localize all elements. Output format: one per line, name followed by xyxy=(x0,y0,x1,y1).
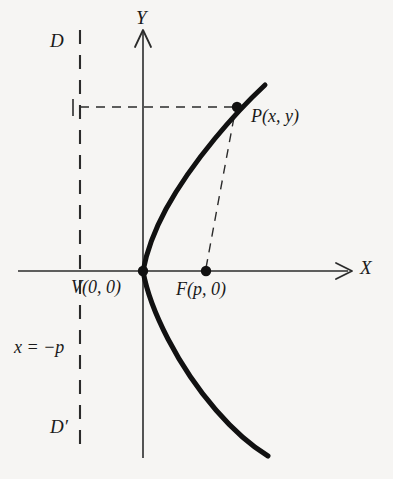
y-axis-label: Y xyxy=(136,8,147,27)
vertex-point xyxy=(138,266,148,276)
focus-label: F(p, 0) xyxy=(176,280,226,298)
point-p-marker xyxy=(232,102,242,112)
figure-canvas xyxy=(0,0,393,479)
vertex-label: V(0, 0) xyxy=(71,278,121,296)
x-axis-label: X xyxy=(360,258,372,277)
parabola-figure: Y X D D′ x = −p P(x, y) V(0, 0) F(p, 0) xyxy=(0,0,393,479)
directrix-bottom-label: D′ xyxy=(50,417,68,436)
directrix-top-label: D xyxy=(50,31,64,50)
x-axis xyxy=(18,263,352,279)
directrix-equation-label: x = −p xyxy=(14,338,64,356)
focus-point xyxy=(201,266,211,276)
point-p-label: P(x, y) xyxy=(251,107,299,125)
